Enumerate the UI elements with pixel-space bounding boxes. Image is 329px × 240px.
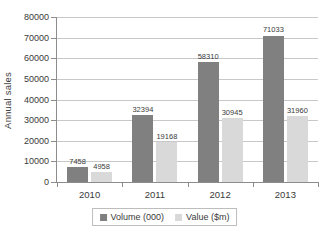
bar-2010-volume[interactable]: [67, 167, 88, 182]
bar-value-label: 71033: [263, 25, 284, 34]
bar-2011-value[interactable]: [156, 142, 177, 182]
bar-2012-volume[interactable]: [198, 62, 219, 182]
bar-value-label: 4958: [93, 162, 110, 171]
bar-value-label: 7458: [69, 157, 86, 166]
legend-item-value[interactable]: Value ($m): [175, 212, 229, 222]
y-tick-mark: [51, 161, 56, 162]
legend-label-value: Value ($m): [186, 212, 229, 222]
y-tick-mark: [51, 17, 56, 18]
y-tick-mark: [51, 79, 56, 80]
bar-2011-volume[interactable]: [132, 115, 153, 182]
bar-value-label: 30945: [222, 108, 243, 117]
legend-swatch-volume-icon: [100, 214, 107, 221]
y-tick-label: 80000: [5, 12, 49, 22]
y-tick-mark: [51, 141, 56, 142]
y-tick-label: 20000: [5, 136, 49, 146]
gridline: [57, 17, 318, 18]
bar-value-label: 32394: [132, 105, 153, 114]
plot-area: 74584958323941916858310309457103331960: [57, 17, 318, 182]
bar-value-label: 19168: [156, 132, 177, 141]
bar-2010-value[interactable]: [91, 172, 112, 182]
y-tick-label: 0: [5, 177, 49, 187]
y-tick-label: 10000: [5, 156, 49, 166]
bar-value-label: 31960: [287, 106, 308, 115]
chart-legend: Volume (000) Value ($m): [92, 208, 238, 226]
bar-2012-value[interactable]: [222, 118, 243, 182]
y-tick-mark: [51, 100, 56, 101]
x-tick-mark: [253, 182, 254, 187]
x-axis-label-2012: 2012: [210, 189, 231, 200]
legend-label-volume: Volume (000): [111, 212, 165, 222]
x-tick-mark: [57, 182, 58, 187]
x-axis-label-2010: 2010: [79, 189, 100, 200]
x-tick-mark: [318, 182, 319, 187]
legend-swatch-value-icon: [175, 214, 182, 221]
y-tick-mark: [51, 38, 56, 39]
y-tick-label: 70000: [5, 33, 49, 43]
x-axis-label-2013: 2013: [275, 189, 296, 200]
legend-item-volume[interactable]: Volume (000): [100, 212, 165, 222]
x-axis-label-2011: 2011: [145, 189, 165, 200]
bar-2013-value[interactable]: [287, 116, 308, 182]
y-tick-label: 30000: [5, 115, 49, 125]
x-tick-mark: [188, 182, 189, 187]
y-tick-mark: [51, 120, 56, 121]
x-tick-mark: [122, 182, 123, 187]
y-tick-mark: [51, 58, 56, 59]
y-tick-label: 50000: [5, 74, 49, 84]
y-tick-label: 60000: [5, 53, 49, 63]
bar-value-label: 58310: [198, 52, 219, 61]
bar-chart: Annual sales 010000200003000040000500006…: [0, 0, 329, 240]
y-tick-mark: [51, 182, 56, 183]
y-tick-label: 40000: [5, 95, 49, 105]
bar-2013-volume[interactable]: [263, 36, 284, 183]
